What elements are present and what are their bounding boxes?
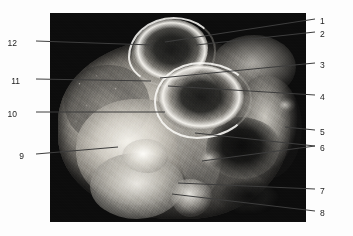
photographic-grain-overlay <box>50 13 306 222</box>
anatomical-photograph <box>50 13 306 222</box>
specimen-upper-valve-cusp <box>132 19 208 81</box>
callout-number-8: 8 <box>320 209 325 218</box>
callout-number-1: 1 <box>320 17 325 26</box>
callout-number-2: 2 <box>320 30 325 39</box>
specimen-upper-right-myocardium <box>212 35 296 97</box>
callout-number-5: 5 <box>320 128 325 137</box>
specimen-dark-notch <box>218 181 278 215</box>
specimen-septal-ridge <box>172 72 226 197</box>
specimen-tissue-fleck-lower <box>196 149 222 167</box>
specimen-upper-valve-cusp-rim <box>128 17 216 89</box>
callout-number-9: 9 <box>19 152 24 161</box>
specimen-lower-valve-cusp-rim <box>154 62 252 139</box>
figure-root: 12345678 1211109 <box>0 0 353 236</box>
specimen-tissue-fleck-right <box>274 97 296 113</box>
callout-number-11: 11 <box>11 77 20 86</box>
specimen-cut-ventricular-face <box>76 99 194 205</box>
specimen-leaflet-flap <box>170 179 212 217</box>
specimen-fibre-striations <box>58 39 290 219</box>
callout-number-12: 12 <box>8 39 17 48</box>
specimen-right-wall-cuff <box>236 75 302 179</box>
callout-number-7: 7 <box>320 187 325 196</box>
specimen-ventricular-cavity <box>206 117 280 179</box>
callout-number-3: 3 <box>320 61 325 70</box>
specimen-papillary-highlight <box>122 139 168 173</box>
callout-number-10: 10 <box>8 110 17 119</box>
specimen-trabeculated-lobe <box>90 153 184 219</box>
callout-number-6: 6 <box>320 144 325 153</box>
specimen-heart-base-mass <box>58 39 290 219</box>
specimen-epicardial-fat-region <box>64 65 150 143</box>
specimen-lower-valve-cusp <box>158 65 244 131</box>
callout-number-4: 4 <box>320 93 325 102</box>
